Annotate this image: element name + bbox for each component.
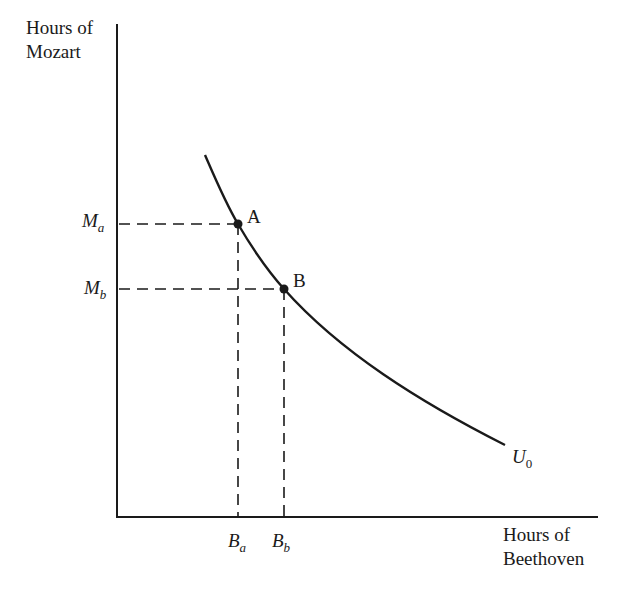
tick-label-ma: Ma xyxy=(82,210,104,234)
tick-label-bb: Bb xyxy=(272,530,290,554)
tick-label-ba: Ba xyxy=(228,530,246,554)
tick-label-ba-main: B xyxy=(228,530,240,551)
tick-label-mb: Mb xyxy=(84,277,106,301)
tick-label-ba-sub: a xyxy=(240,540,247,555)
curve-label-u0: U0 xyxy=(512,446,532,470)
tick-label-ma-sub: a xyxy=(98,220,105,235)
y-axis-label: Hours of Mozart xyxy=(26,17,93,63)
curve-label-main: U xyxy=(512,446,526,467)
point-a-marker xyxy=(234,220,243,229)
indifference-curve-u0 xyxy=(205,155,505,445)
tick-label-bb-main: B xyxy=(272,530,284,551)
x-axis-label-line2: Beethoven xyxy=(503,548,584,570)
x-axis-label: Hours of Beethoven xyxy=(503,524,584,570)
point-b-label: B xyxy=(293,270,306,292)
y-axis-label-line2: Mozart xyxy=(26,41,93,63)
tick-label-mb-sub: b xyxy=(100,287,107,302)
x-axis-label-line1: Hours of xyxy=(503,524,584,546)
point-b-marker xyxy=(280,285,289,294)
curve-label-sub: 0 xyxy=(526,456,533,471)
tick-label-bb-sub: b xyxy=(284,540,291,555)
y-axis-label-line1: Hours of xyxy=(26,17,93,39)
tick-label-ma-main: M xyxy=(82,210,98,231)
tick-label-mb-main: M xyxy=(84,277,100,298)
point-a-label: A xyxy=(247,206,261,228)
